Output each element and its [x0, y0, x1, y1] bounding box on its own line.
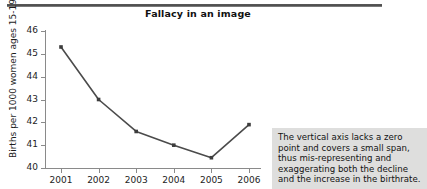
annotation-text: The vertical axis lacks a zero point and…	[278, 132, 423, 185]
data-point-marker	[172, 143, 176, 147]
data-point-marker	[210, 156, 214, 160]
data-point-marker	[134, 130, 138, 134]
annotation-callout: The vertical axis lacks a zero point and…	[272, 128, 427, 189]
data-point-marker	[247, 123, 251, 127]
data-point-marker	[59, 45, 63, 49]
series-line	[61, 47, 249, 158]
data-point-marker	[97, 98, 101, 102]
chart-figure: Fallacy in an image Births per 1000 wome…	[0, 0, 427, 189]
